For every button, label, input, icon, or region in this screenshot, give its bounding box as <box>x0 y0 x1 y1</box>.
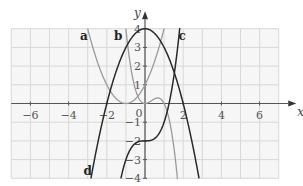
x-axis-arrow-icon <box>288 101 296 107</box>
curve-label-b: b <box>114 29 122 43</box>
y-tick-label: 2 <box>134 60 141 73</box>
x-tick-label: −2 <box>99 109 115 122</box>
y-tick-label: 3 <box>134 41 141 54</box>
x-tick-label: 6 <box>256 109 263 122</box>
x-tick-label: −4 <box>60 109 76 122</box>
function-graph: xy −6−4−22460−4−3−2−11234 abcd <box>0 0 303 186</box>
x-tick-label: 4 <box>218 109 225 122</box>
y-tick-label: −1 <box>125 116 141 129</box>
curve-label-c: c <box>179 29 186 43</box>
y-axis-arrow-icon <box>142 11 148 19</box>
y-tick-label: −4 <box>125 172 141 185</box>
x-tick-label: −6 <box>22 109 38 122</box>
curve-label-d: d <box>84 164 93 178</box>
y-axis-label: y <box>133 6 141 20</box>
curve-label-a: a <box>80 29 88 43</box>
x-axis-label: x <box>297 105 303 119</box>
